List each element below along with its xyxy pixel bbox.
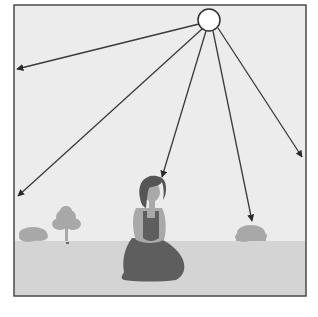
sky: [14, 5, 306, 241]
sun-icon: [198, 9, 220, 31]
neck: [149, 199, 155, 209]
diagram-canvas: [0, 0, 318, 317]
sunlight-diagram: [0, 0, 318, 317]
